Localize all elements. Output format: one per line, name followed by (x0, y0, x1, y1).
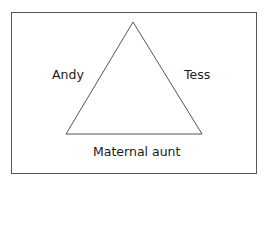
label-tess: Tess (184, 69, 210, 82)
label-andy: Andy (52, 69, 84, 82)
label-maternal-aunt: Maternal aunt (93, 146, 180, 159)
